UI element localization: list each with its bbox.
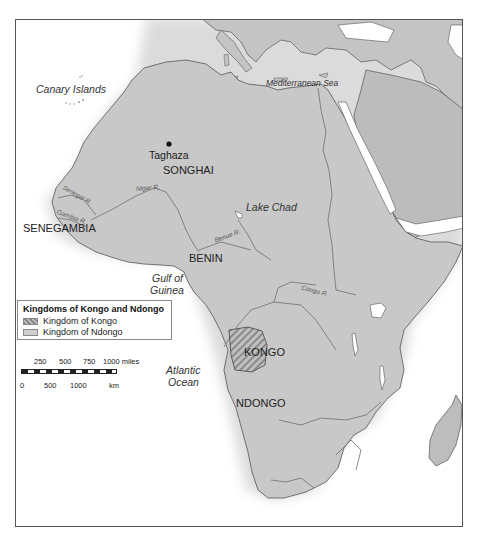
hatched-swatch-icon <box>23 318 38 325</box>
scale-bar: 250 500 750 1000 miles 0 500 1000 km <box>20 357 130 397</box>
label-canary-islands: Canary Islands <box>36 84 106 95</box>
label-songhai: SONGHAI <box>163 165 214 176</box>
label-benin: BENIN <box>189 253 223 264</box>
taghaza-marker-icon <box>166 141 171 146</box>
label-atlantic-ocean-line2: Ocean <box>168 377 199 388</box>
map-frame: Canary Islands Mediterranean Sea Taghaza… <box>15 19 463 527</box>
scale-miles-tick: 500 <box>59 357 72 366</box>
label-gulf-of-guinea-line1: Gulf of <box>152 273 183 284</box>
label-ndongo: NDONGO <box>236 398 286 409</box>
label-gulf-of-guinea-line2: Guinea <box>150 285 184 296</box>
scale-miles-tick: 250 <box>34 357 47 366</box>
scale-km-tick: 500 <box>44 381 57 390</box>
legend-title: Kingdoms of Kongo and Ndongo <box>23 304 166 314</box>
sardinia <box>224 54 229 66</box>
legend-label-ndongo: Kingdom of Ndongo <box>43 327 123 337</box>
map-legend: Kingdoms of Kongo and Ndongo Kingdom of … <box>17 300 172 340</box>
label-kongo: KONGO <box>244 347 285 358</box>
scale-km-tick: 1000 <box>70 381 87 390</box>
label-senegambia: SENEGAMBIA <box>23 223 96 234</box>
scale-miles-tick: 1000 miles <box>103 357 139 366</box>
label-atlantic-ocean-line1: Atlantic <box>166 365 200 376</box>
scale-miles-tick: 750 <box>83 357 96 366</box>
legend-label-kongo: Kingdom of Kongo <box>43 316 117 326</box>
legend-item-kongo: Kingdom of Kongo <box>23 316 166 326</box>
legend-item-ndongo: Kingdom of Ndongo <box>23 327 166 337</box>
label-mediterranean-sea: Mediterranean Sea <box>266 79 338 88</box>
solid-swatch-icon <box>23 329 38 336</box>
scale-bar-graphic <box>21 369 117 374</box>
label-taghaza: Taghaza <box>149 150 189 161</box>
scale-km-row: 0 500 1000 km <box>20 381 130 390</box>
africa-map <box>16 20 463 527</box>
scale-km-tick: km <box>109 381 119 390</box>
scale-miles-row: 250 500 750 1000 miles <box>20 357 130 366</box>
scale-km-tick: 0 <box>20 381 24 390</box>
madagascar <box>429 395 462 466</box>
label-lake-chad: Lake Chad <box>246 202 297 213</box>
